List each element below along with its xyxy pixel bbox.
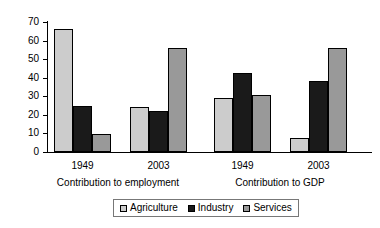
bar-services-2	[252, 95, 271, 152]
plot-area	[48, 22, 372, 152]
legend-label-services: Services	[253, 202, 291, 214]
legend-item-agriculture[interactable]: Agriculture	[120, 202, 178, 214]
x-axis-line	[47, 152, 372, 153]
bar-agriculture-0	[54, 29, 73, 152]
bar-services-0	[92, 134, 111, 152]
bar-industry-1	[149, 111, 168, 152]
y-axis-tick-label: 20	[9, 110, 39, 120]
legend-swatch-icon	[243, 205, 250, 212]
y-axis-tick-label: 60	[9, 36, 39, 46]
chart-legend: Agriculture Industry Services	[113, 199, 299, 217]
legend-item-industry[interactable]: Industry	[188, 202, 234, 214]
bar-industry-2	[233, 73, 252, 152]
bar-industry-3	[309, 81, 328, 152]
y-axis-tick	[43, 152, 48, 153]
y-axis-tick-label: 50	[9, 54, 39, 64]
bar-agriculture-2	[214, 98, 233, 152]
legend-swatch-icon	[188, 205, 195, 212]
section-label-employment: Contribution to employment	[28, 177, 208, 188]
section-label-gdp: Contribution to GDP	[190, 177, 370, 188]
legend-swatch-icon	[120, 205, 127, 212]
bar-agriculture-1	[130, 107, 149, 152]
x-axis-label-2: 1949	[213, 160, 273, 171]
y-axis-tick-label: 40	[9, 73, 39, 83]
y-axis-tick-label: 10	[9, 128, 39, 138]
bar-chart: 010203040506070 1949200319492003 Contrib…	[0, 0, 380, 228]
legend-label-agriculture: Agriculture	[130, 202, 178, 214]
bar-services-3	[328, 48, 347, 152]
y-axis-tick-label: 30	[9, 91, 39, 101]
x-axis-label-1: 2003	[129, 160, 189, 171]
x-axis-label-3: 2003	[289, 160, 349, 171]
legend-label-industry: Industry	[198, 202, 234, 214]
legend-item-services[interactable]: Services	[243, 202, 291, 214]
bar-industry-0	[73, 106, 92, 152]
x-axis-label-0: 1949	[53, 160, 113, 171]
y-axis-tick-label: 70	[9, 17, 39, 27]
bar-agriculture-3	[290, 138, 309, 152]
y-axis-tick-label: 0	[9, 147, 39, 157]
bar-services-1	[168, 48, 187, 152]
